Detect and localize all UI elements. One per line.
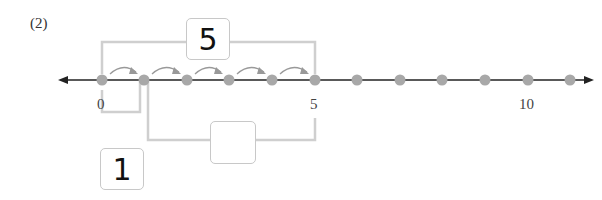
hop-arrows [110,67,307,74]
bottom-left-box: 1 [100,148,144,190]
left-arrow-icon [58,76,68,84]
answer-blank-box[interactable] [210,121,256,164]
right-arrow-icon [584,76,594,84]
tick-label-10: 10 [519,96,534,113]
tick-label-5: 5 [310,96,318,113]
bottom-left-bracket [102,82,140,112]
number-line-diagram [0,0,602,200]
top-total-box: 5 [186,18,230,60]
tick-label-0: 0 [97,96,105,113]
